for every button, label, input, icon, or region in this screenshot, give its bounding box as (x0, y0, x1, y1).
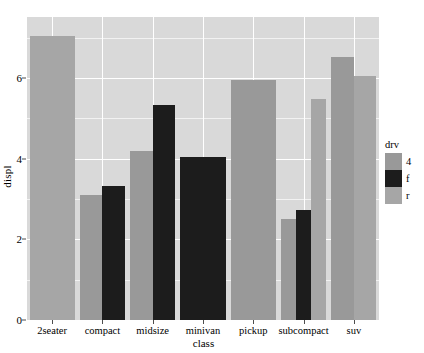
x-tick-mark (102, 320, 103, 324)
x-tick-mark (153, 320, 154, 324)
bar-subcompact-4 (281, 219, 296, 320)
x-tick-label-pickup: pickup (239, 325, 268, 336)
y-tick-label: 2 (0, 233, 22, 245)
x-tick-mark (304, 320, 305, 324)
x-tick-label-compact: compact (85, 325, 121, 336)
x-tick-label-midsize: midsize (136, 325, 169, 336)
legend-swatch-4 (385, 153, 402, 170)
legend-items: 4fr (385, 153, 423, 204)
y-tick-label: 0 (0, 314, 22, 326)
legend-item-f: f (385, 170, 423, 187)
plot-panel (27, 17, 379, 320)
bar-compact-f (102, 186, 125, 320)
y-tick-mark (22, 320, 26, 321)
x-tick-mark (354, 320, 355, 324)
x-axis-title: class (26, 337, 381, 349)
y-tick-label: 6 (0, 72, 22, 84)
y-tick-mark (22, 239, 26, 240)
x-tick-mark (203, 320, 204, 324)
bar-pickup-4 (231, 80, 276, 320)
bar-suv-r (354, 76, 377, 320)
y-tick-mark (22, 158, 26, 159)
legend-swatch-r (385, 187, 402, 204)
x-tick-mark (253, 320, 254, 324)
legend-item-r: r (385, 187, 423, 204)
bar-compact-4 (80, 195, 103, 320)
bar-subcompact-r (311, 99, 326, 320)
legend: drv 4fr (385, 139, 423, 204)
legend-item-4: 4 (385, 153, 423, 170)
x-tick-label-minivan: minivan (186, 325, 220, 336)
y-tick-label: 4 (0, 153, 22, 165)
bar-minivan-f (180, 157, 225, 320)
bar-2seater-r (30, 36, 75, 320)
x-tick-label-2seater: 2seater (37, 325, 67, 336)
y-tick-mark (22, 77, 26, 78)
legend-label-4: 4 (406, 153, 411, 170)
bar-subcompact-f (296, 210, 311, 320)
legend-swatch-f (385, 170, 402, 187)
x-tick-mark (52, 320, 53, 324)
bar-suv-4 (331, 57, 354, 320)
x-tick-label-suv: suv (347, 325, 362, 336)
legend-title: drv (385, 139, 423, 150)
bar-midsize-4 (130, 151, 153, 320)
bar-chart: displ 0246 2seatercompactmidsizeminivanp… (0, 0, 424, 353)
legend-label-f: f (406, 170, 410, 187)
bar-midsize-f (153, 105, 176, 320)
y-axis-tick-labels: 0246 (0, 0, 22, 353)
legend-label-r: r (406, 187, 410, 204)
x-tick-label-subcompact: subcompact (278, 325, 328, 336)
